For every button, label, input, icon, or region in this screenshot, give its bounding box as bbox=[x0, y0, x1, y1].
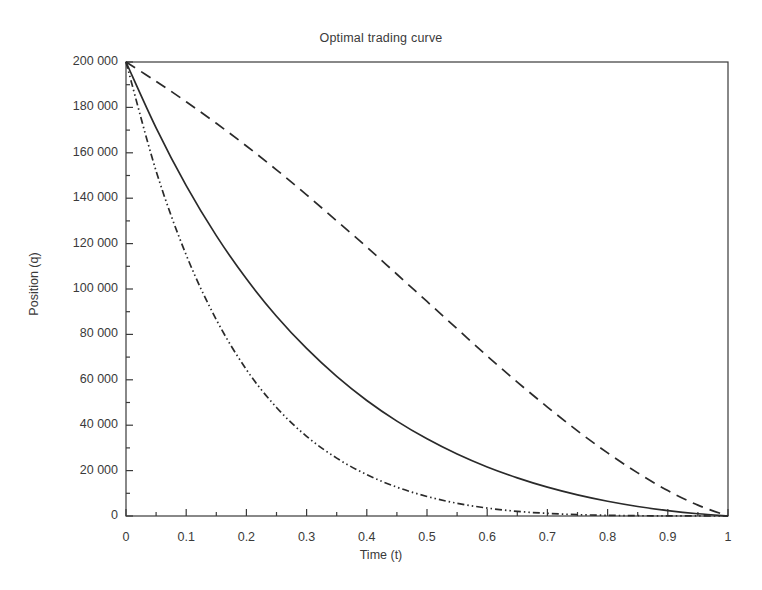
plot-area bbox=[0, 0, 762, 590]
x-tick-label: 0.9 bbox=[638, 530, 698, 544]
x-tick-label: 0.7 bbox=[517, 530, 577, 544]
plot-frame-rect bbox=[126, 62, 728, 516]
plot-frame bbox=[126, 62, 728, 516]
x-tick-label: 0.4 bbox=[337, 530, 397, 544]
y-tick-label: 140 000 bbox=[26, 190, 118, 204]
x-tick-label: 0.2 bbox=[216, 530, 276, 544]
x-tick-label: 0.6 bbox=[457, 530, 517, 544]
chart-figure: Optimal trading curve 020 00040 00060 00… bbox=[0, 0, 762, 590]
x-tick-label: 0.8 bbox=[578, 530, 638, 544]
y-tick-label: 160 000 bbox=[26, 145, 118, 159]
y-axis-title: Position (q) bbox=[27, 224, 41, 344]
y-tick-label: 180 000 bbox=[26, 99, 118, 113]
x-tick-label: 0.3 bbox=[277, 530, 337, 544]
y-tick-label: 40 000 bbox=[26, 417, 118, 431]
x-tick-label: 0 bbox=[96, 530, 156, 544]
x-tick-label: 0.1 bbox=[156, 530, 216, 544]
y-tick-label: 60 000 bbox=[26, 372, 118, 386]
y-tick-label: 200 000 bbox=[26, 54, 118, 68]
y-tick-label: 20 000 bbox=[26, 463, 118, 477]
y-tick-label: 0 bbox=[26, 508, 118, 522]
x-tick-label: 1 bbox=[698, 530, 758, 544]
x-tick-label: 0.5 bbox=[397, 530, 457, 544]
x-axis-title: Time (t) bbox=[0, 548, 762, 562]
